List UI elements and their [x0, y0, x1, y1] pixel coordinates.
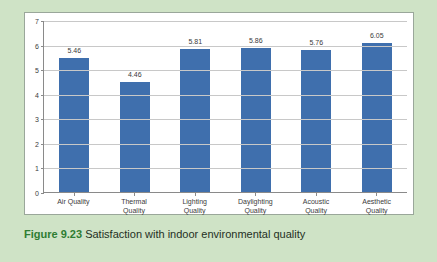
x-axis-category-label: AcousticQuality [286, 197, 347, 215]
y-axis-tickmark [41, 95, 44, 96]
figure-caption: Figure 9.23 Satisfaction with indoor env… [24, 228, 424, 241]
x-axis-category-label: ThermalQuality [104, 197, 165, 215]
x-axis-category-label-line: Daylighting [225, 197, 286, 206]
y-axis-tickmark [41, 168, 44, 169]
bar-slot: 6.05 [347, 21, 408, 192]
gridline [44, 144, 407, 145]
y-axis-tick-label: 2 [35, 140, 39, 147]
y-axis-tick-label: 6 [35, 42, 39, 49]
x-axis-tickmark [195, 192, 196, 196]
x-axis-category-label-line: Quality [104, 206, 165, 215]
x-axis-category-labels: Air QualityThermalQualityLightingQuality… [43, 197, 407, 215]
x-axis-tickmark [376, 192, 377, 196]
y-axis-tick-label: 1 [35, 165, 39, 172]
gridline [44, 168, 407, 169]
bar-slot: 4.46 [105, 21, 166, 192]
y-axis-tickmark [41, 193, 44, 194]
x-axis-category-label: Air Quality [43, 197, 104, 215]
y-axis-tick-label: 5 [35, 67, 39, 74]
x-axis-category-label-line: Quality [346, 206, 407, 215]
bar[interactable]: 4.46 [120, 82, 150, 192]
bar-value-label: 5.86 [249, 37, 263, 44]
x-axis-category-label-line: Quality [225, 206, 286, 215]
x-axis-category-label: AestheticQuality [346, 197, 407, 215]
chart-panel: 01234567 5.464.465.815.865.766.05 Air Qu… [24, 12, 414, 215]
x-axis-category-label-line: Thermal [104, 197, 165, 206]
x-axis-category-label-line: Quality [164, 206, 225, 215]
gridline [44, 95, 407, 96]
x-axis-category-label-line: Air Quality [43, 197, 104, 206]
y-axis-tickmark [41, 119, 44, 120]
bar-slot: 5.81 [165, 21, 226, 192]
figure-number: Figure 9.23 [24, 228, 82, 240]
x-axis-category-label-line: Aesthetic [346, 197, 407, 206]
x-axis-tickmark [316, 192, 317, 196]
gridline [44, 46, 407, 47]
bar-group: 5.464.465.815.865.766.05 [44, 21, 407, 192]
bar-slot: 5.76 [286, 21, 347, 192]
bar-value-label: 6.05 [370, 32, 384, 39]
x-axis-category-label: DaylightingQuality [225, 197, 286, 215]
bar[interactable]: 5.76 [301, 50, 331, 192]
y-axis-tickmark [41, 46, 44, 47]
x-axis-category-label-line: Acoustic [286, 197, 347, 206]
y-axis-tickmark [41, 21, 44, 22]
y-axis-tick-label: 7 [35, 18, 39, 25]
bar-slot: 5.86 [226, 21, 287, 192]
gridline [44, 21, 407, 22]
x-axis-tickmark [255, 192, 256, 196]
bar-slot: 5.46 [44, 21, 105, 192]
bar-value-label: 5.81 [188, 38, 202, 45]
x-axis-tickmark [134, 192, 135, 196]
y-axis-ticks: 01234567 [25, 21, 41, 193]
plot-area: 5.464.465.815.865.766.05 [43, 21, 407, 193]
gridline [44, 119, 407, 120]
y-axis-tick-label: 3 [35, 116, 39, 123]
x-axis-category-label-line: Lighting [164, 197, 225, 206]
gridline [44, 70, 407, 71]
bar-value-label: 5.46 [67, 47, 81, 54]
y-axis-tickmark [41, 70, 44, 71]
x-axis-category-label-line: Quality [286, 206, 347, 215]
bar-value-label: 4.46 [128, 71, 142, 78]
bar[interactable]: 5.46 [59, 58, 89, 192]
plot-wrapper: 01234567 5.464.465.815.865.766.05 Air Qu… [25, 13, 413, 214]
bar[interactable]: 6.05 [362, 43, 392, 192]
x-axis-tickmark [74, 192, 75, 196]
y-axis-tick-label: 4 [35, 91, 39, 98]
y-axis-tickmark [41, 144, 44, 145]
y-axis-tick-label: 0 [35, 190, 39, 197]
figure-title: Satisfaction with indoor environmental q… [85, 228, 305, 240]
figure-page: 01234567 5.464.465.815.865.766.05 Air Qu… [0, 0, 437, 262]
x-axis-category-label: LightingQuality [164, 197, 225, 215]
